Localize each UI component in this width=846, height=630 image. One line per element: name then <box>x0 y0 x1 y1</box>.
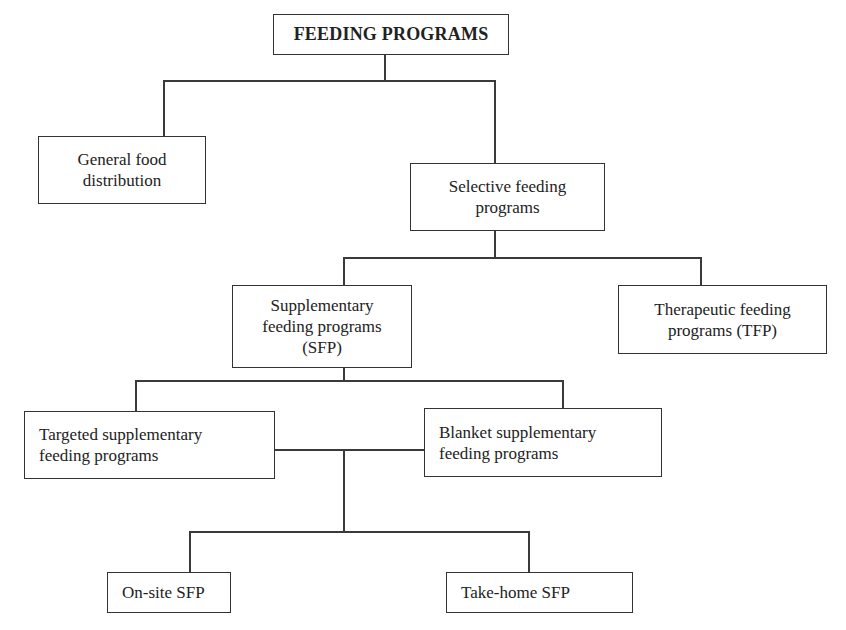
node-label-line: distribution <box>83 170 161 191</box>
node-label-line: (SFP) <box>302 337 342 358</box>
connector-to-general <box>163 80 165 137</box>
node-label-line: Take-home SFP <box>461 582 570 603</box>
node-label-line: feeding programs <box>262 316 381 337</box>
connector-to-selective <box>494 80 496 164</box>
node-label-line: programs <box>475 197 539 218</box>
connector-targeted-blanket <box>274 449 425 451</box>
node-label-line: Targeted supplementary <box>39 424 202 445</box>
node-blanket-supplementary-feeding: Blanket supplementary feeding programs <box>424 408 662 477</box>
node-label-line: On-site SFP <box>122 582 205 603</box>
node-general-food-distribution: General food distribution <box>38 136 206 204</box>
connector-level4-bar <box>189 531 529 533</box>
connector-to-sfp <box>343 257 345 286</box>
node-label-line: Supplementary <box>271 295 374 316</box>
node-feeding-programs: FEEDING PROGRAMS <box>273 14 509 55</box>
connector-to-takehome <box>528 531 530 573</box>
node-targeted-supplementary-feeding: Targeted supplementary feeding programs <box>24 411 275 479</box>
node-selective-feeding-programs: Selective feeding programs <box>410 163 605 231</box>
node-take-home-sfp: Take-home SFP <box>446 572 633 613</box>
connector-to-targeted <box>135 380 137 412</box>
connector-root-down <box>384 54 386 82</box>
connector-level3-bar <box>135 380 563 382</box>
connector-level1-bar <box>163 80 495 82</box>
node-label-line: programs (TFP) <box>668 320 777 341</box>
node-on-site-sfp: On-site SFP <box>107 572 231 613</box>
connector-level2-bar <box>343 257 701 259</box>
node-label-line: Blanket supplementary <box>439 422 596 443</box>
node-label-line: Therapeutic feeding <box>654 299 790 320</box>
node-label: FEEDING PROGRAMS <box>294 24 489 45</box>
connector-to-onsite <box>189 531 191 573</box>
connector-selective-down <box>494 230 496 259</box>
node-label-line: General food <box>77 149 166 170</box>
node-therapeutic-feeding-programs: Therapeutic feeding programs (TFP) <box>618 285 827 354</box>
connector-to-blanket <box>562 380 564 409</box>
node-supplementary-feeding-programs: Supplementary feeding programs (SFP) <box>232 285 412 368</box>
connector-level4-down <box>343 449 345 533</box>
node-label-line: Selective feeding <box>449 176 567 197</box>
connector-to-tfp <box>700 257 702 286</box>
node-label-line: feeding programs <box>39 445 158 466</box>
node-label-line: feeding programs <box>439 443 558 464</box>
